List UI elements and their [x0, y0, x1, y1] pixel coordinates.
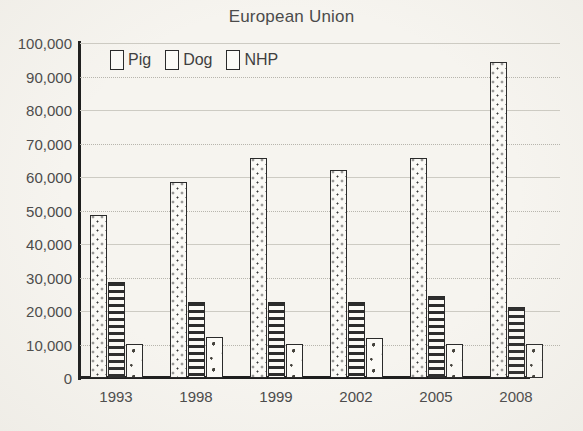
- bar-nhp-1999: [286, 344, 303, 379]
- gridline: [80, 144, 560, 145]
- bar-pig-1993: [90, 215, 107, 378]
- bar-nhp-2005: [446, 344, 463, 378]
- gridline: [80, 177, 560, 178]
- bar-dog-2005: [428, 296, 445, 378]
- legend-entry-dog[interactable]: Dog: [165, 50, 212, 70]
- y-axis-tick-label: 0: [0, 370, 72, 387]
- gridline: [80, 311, 560, 312]
- gridline: [80, 43, 560, 44]
- bar-dog-2002: [348, 302, 365, 378]
- y-axis-tick-label: 80,000: [0, 102, 72, 119]
- gridline: [80, 110, 560, 111]
- bar-dog-1993: [108, 282, 125, 378]
- legend-label: Pig: [128, 51, 151, 69]
- x-axis-tick-label-2008: 2008: [499, 388, 532, 405]
- bar-nhp-2002: [366, 338, 383, 378]
- bar-dog-1999: [268, 302, 285, 378]
- x-axis-tick-label-1993: 1993: [99, 388, 132, 405]
- gridline: [80, 345, 560, 346]
- legend-entry-pig[interactable]: Pig: [110, 50, 151, 70]
- y-axis-tick-label: 30,000: [0, 269, 72, 286]
- x-axis-tick-label-2005: 2005: [419, 388, 452, 405]
- x-axis-tick-label-1999: 1999: [259, 388, 292, 405]
- x-axis-tick-label-2002: 2002: [339, 388, 372, 405]
- y-axis-tick-label: 70,000: [0, 135, 72, 152]
- bar-pig-2002: [330, 170, 347, 378]
- page-title: European Union: [0, 7, 583, 27]
- gridline: [80, 278, 560, 279]
- bar-pig-1998: [170, 182, 187, 378]
- legend-label: NHP: [244, 51, 278, 69]
- gridline: [80, 211, 560, 212]
- bar-nhp-1993: [126, 344, 143, 378]
- legend-swatch-nhp-icon: [226, 50, 240, 70]
- y-axis-tick-label: 50,000: [0, 202, 72, 219]
- gridline: [80, 77, 560, 78]
- bar-dog-1998: [188, 302, 205, 378]
- chart-page: European Union 010,00020,00030,00040,000…: [0, 0, 583, 431]
- y-axis-tick-label: 40,000: [0, 236, 72, 253]
- plot-area: [80, 43, 560, 378]
- bar-pig-1999: [250, 158, 267, 378]
- legend-label: Dog: [183, 51, 212, 69]
- chart-legend: PigDogNHP: [110, 50, 278, 70]
- legend-swatch-pig-icon: [110, 50, 124, 70]
- bar-nhp-1998: [206, 337, 223, 378]
- bar-pig-2005: [410, 158, 427, 378]
- legend-entry-nhp[interactable]: NHP: [226, 50, 278, 70]
- x-axis-tick-label-1998: 1998: [179, 388, 212, 405]
- bar-dog-2008: [508, 307, 525, 378]
- legend-swatch-dog-icon: [165, 50, 179, 70]
- y-axis-tick-label: 20,000: [0, 303, 72, 320]
- bar-nhp-2008: [526, 344, 543, 378]
- y-axis-tick-label: 10,000: [0, 336, 72, 353]
- bar-pig-2008: [490, 62, 507, 378]
- gridline: [80, 244, 560, 245]
- y-axis-tick-label: 100,000: [0, 35, 72, 52]
- y-axis-tick-label: 60,000: [0, 169, 72, 186]
- y-axis-tick-label: 90,000: [0, 68, 72, 85]
